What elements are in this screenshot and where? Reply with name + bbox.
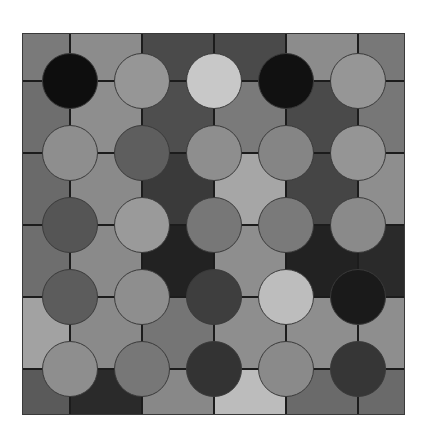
game-piece-circle[interactable] bbox=[330, 341, 386, 397]
game-piece-circle[interactable] bbox=[114, 341, 170, 397]
game-piece-circle[interactable] bbox=[330, 269, 386, 325]
game-piece-circle[interactable] bbox=[330, 197, 386, 253]
game-piece-circle[interactable] bbox=[114, 197, 170, 253]
game-board bbox=[22, 33, 405, 415]
game-piece-circle[interactable] bbox=[186, 125, 242, 181]
game-piece-circle[interactable] bbox=[258, 125, 314, 181]
game-piece-circle[interactable] bbox=[186, 341, 242, 397]
game-piece-circle[interactable] bbox=[114, 53, 170, 109]
game-piece-circle[interactable] bbox=[114, 269, 170, 325]
game-piece-circle[interactable] bbox=[42, 53, 98, 109]
game-piece-circle[interactable] bbox=[258, 341, 314, 397]
game-piece-circle[interactable] bbox=[42, 125, 98, 181]
game-piece-circle[interactable] bbox=[186, 53, 242, 109]
game-piece-circle[interactable] bbox=[186, 269, 242, 325]
game-piece-circle[interactable] bbox=[42, 197, 98, 253]
game-piece-circle[interactable] bbox=[330, 125, 386, 181]
game-piece-circle[interactable] bbox=[258, 197, 314, 253]
game-piece-circle[interactable] bbox=[186, 197, 242, 253]
game-piece-circle[interactable] bbox=[42, 269, 98, 325]
game-piece-circle[interactable] bbox=[258, 269, 314, 325]
game-piece-circle[interactable] bbox=[330, 53, 386, 109]
game-piece-circle[interactable] bbox=[258, 53, 314, 109]
game-piece-circle[interactable] bbox=[42, 341, 98, 397]
game-piece-circle[interactable] bbox=[114, 125, 170, 181]
